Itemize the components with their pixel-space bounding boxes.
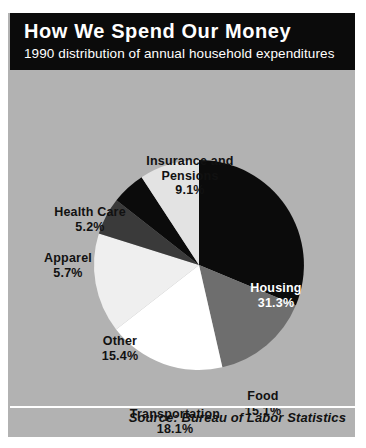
pie-label-other: Other 15.4% [70,334,170,363]
pie-label-apparel-name: Apparel [44,251,92,265]
pie-label-health-care-value: 5.2% [30,220,150,235]
pie-label-health-care-name: Health Care [54,205,126,219]
pie-label-apparel: Apparel 5.7% [18,251,118,280]
pie-label-food-name: Food [247,389,278,403]
page-subtitle: 1990 distribution of annual household ex… [24,44,355,63]
title-bar: How We Spend Our Money 1990 distribution… [10,13,355,70]
pie-chart-svg [8,70,355,400]
pie-label-housing-value: 31.3% [230,296,322,311]
pie-chart-area: Insurance and Pensions 9.1% Health Care … [8,70,355,400]
pie-label-insurance-and-pensions: Insurance and Pensions 9.1% [120,154,260,198]
pie-label-insurance-name-line2: Pensions [161,169,218,183]
infographic-figure: How We Spend Our Money 1990 distribution… [0,0,366,448]
pie-label-health-care: Health Care 5.2% [30,205,150,234]
source-caption: Source: Bureau of Labor Statistics [10,410,346,425]
page-title: How We Spend Our Money [24,19,355,44]
pie-label-housing: Housing 31.3% [230,281,322,310]
pie-label-other-name: Other [103,334,137,348]
pie-label-apparel-value: 5.7% [18,266,118,281]
pie-label-other-value: 15.4% [70,349,170,364]
pie-label-insurance-value: 9.1% [120,183,260,198]
footer-divider [10,406,355,408]
pie-label-insurance-name-line1: Insurance and [146,154,233,168]
pie-label-housing-name: Housing [250,281,301,295]
